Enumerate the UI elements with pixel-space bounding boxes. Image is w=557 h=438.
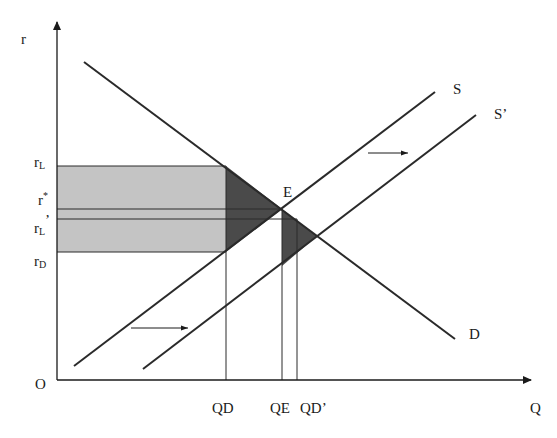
equilibrium-label: E xyxy=(283,184,292,200)
x-axis-label: Q xyxy=(530,400,541,416)
supply-label: S xyxy=(453,81,461,97)
tick-label-rL-prime: rL’ xyxy=(34,212,50,237)
dark-triangle-right xyxy=(282,209,317,266)
tick-label-rL: rL xyxy=(34,154,45,171)
demand-label: D xyxy=(469,326,480,342)
y-axis-label: r xyxy=(21,31,26,47)
tick-label-rD: rD xyxy=(34,253,46,270)
tick-label-r-star: r* xyxy=(38,190,48,208)
supply-demand-diagram: r Q O rL r* rL’ rD QD QE QD’ D S S’ E xyxy=(0,0,557,438)
tick-label-QD-prime: QD’ xyxy=(300,400,327,416)
tick-label-QE: QE xyxy=(270,400,290,416)
tick-label-QD: QD xyxy=(212,400,234,416)
origin-label: O xyxy=(35,376,46,392)
supply-shifted-label: S’ xyxy=(494,106,507,122)
